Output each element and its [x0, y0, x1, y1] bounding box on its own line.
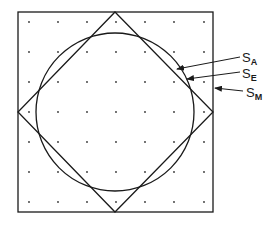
grid-dot — [57, 141, 59, 143]
grid-dot — [57, 171, 59, 173]
grid-dot — [115, 171, 117, 173]
grid-dot — [144, 141, 146, 143]
grid-dot — [28, 51, 30, 53]
grid-dot — [203, 21, 205, 23]
grid-dot — [115, 51, 117, 53]
grid-dot — [86, 111, 88, 113]
grid-dot — [173, 111, 175, 113]
grid-dot — [86, 21, 88, 23]
grid-dot — [86, 201, 88, 203]
grid-dot — [173, 51, 175, 53]
grid-dot — [203, 141, 205, 143]
grid-dot — [203, 111, 205, 113]
grid-dot — [144, 81, 146, 83]
grid-dot — [173, 171, 175, 173]
grid-dot — [57, 51, 59, 53]
grid-dot — [57, 201, 59, 203]
grid-dot — [144, 21, 146, 23]
grid-dot — [144, 51, 146, 53]
grid-dot — [203, 201, 205, 203]
grid-dot — [115, 21, 117, 23]
grid-dot — [28, 81, 30, 83]
arrow-sa — [177, 57, 240, 69]
grid-dot — [28, 21, 30, 23]
label-sa: SA — [242, 51, 257, 67]
arrow-sm — [215, 88, 243, 91]
grid-dot — [144, 171, 146, 173]
grid-dot — [28, 141, 30, 143]
grid-dot — [144, 201, 146, 203]
grid-dots — [28, 21, 205, 203]
grid-dot — [57, 21, 59, 23]
grid-dot — [115, 81, 117, 83]
grid-dot — [173, 201, 175, 203]
grid-dot — [173, 21, 175, 23]
grid-dot — [28, 171, 30, 173]
label-se: SE — [242, 67, 257, 83]
grid-dot — [203, 171, 205, 173]
grid-dot — [115, 201, 117, 203]
grid-dot — [57, 81, 59, 83]
grid-dot — [28, 201, 30, 203]
grid-dot — [28, 111, 30, 113]
grid-dot — [115, 141, 117, 143]
grid-dot — [86, 81, 88, 83]
grid-dot — [86, 51, 88, 53]
label-sm: SM — [246, 86, 262, 102]
grid-dot — [86, 171, 88, 173]
grid-dot — [203, 51, 205, 53]
geometry-diagram — [0, 0, 275, 226]
grid-dot — [203, 81, 205, 83]
grid-dot — [86, 141, 88, 143]
grid-dot — [144, 111, 146, 113]
grid-dot — [173, 81, 175, 83]
circle-se — [36, 33, 194, 191]
grid-dot — [173, 141, 175, 143]
grid-dot — [57, 111, 59, 113]
grid-dot — [115, 111, 117, 113]
